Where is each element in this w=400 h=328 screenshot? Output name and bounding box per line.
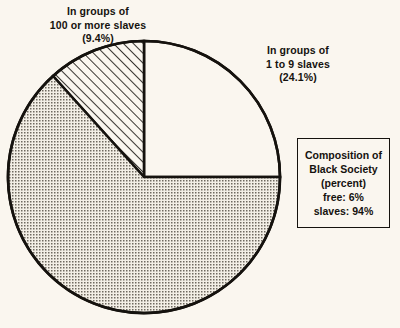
pie-chart-figure: In groups of 100 or more slaves (9.4%) I… [0,0,400,328]
legend-line-units: (percent) [321,176,366,190]
pie-label-large-holdings: In groups of 100 or more slaves (9.4%) [18,5,178,46]
legend-line-free: free: 6% [323,190,364,204]
legend-box: Composition of Black Society (percent) f… [297,138,390,228]
legend-line-slaves: slaves: 94% [314,204,374,218]
legend-line-title-1: Composition of [305,148,382,162]
legend-line-title-2: Black Society [309,162,377,176]
pie-label-small-holdings: In groups of 1 to 9 slaves (24.1%) [228,44,368,85]
